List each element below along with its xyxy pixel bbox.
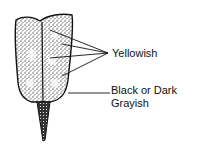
tail bbox=[37, 102, 50, 141]
label-grayish: Grayish bbox=[111, 97, 149, 109]
diagram-canvas: Yellowish Black or Dark Grayish bbox=[0, 0, 209, 147]
label-yellowish: Yellowish bbox=[112, 47, 157, 59]
abdomen-body bbox=[15, 14, 72, 102]
abdomen-illustration bbox=[0, 0, 209, 147]
label-black-or-dark: Black or Dark bbox=[111, 84, 177, 96]
